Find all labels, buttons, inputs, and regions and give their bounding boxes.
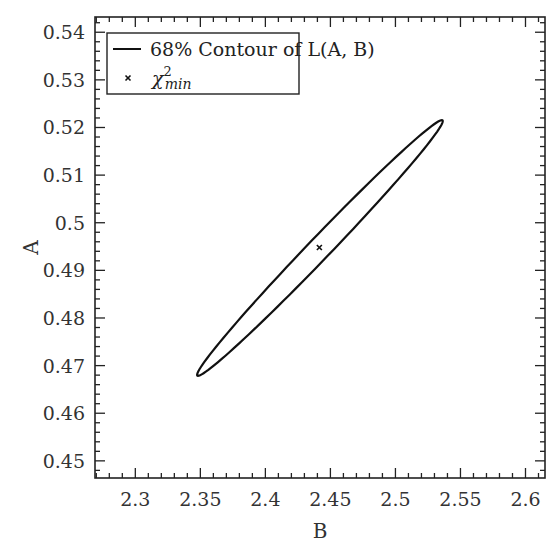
y-tick-label: 0.46: [43, 402, 85, 424]
y-tick-label: 0.51: [43, 164, 85, 186]
y-tick-label: 0.49: [43, 259, 85, 281]
y-tick-label: 0.53: [43, 69, 85, 91]
x-tick-label: 2.45: [309, 488, 351, 510]
x-tick-label: 2.4: [250, 488, 280, 510]
legend: 68% Contour of L(A, B) χ2min: [107, 33, 375, 94]
x-tick-label: 2.35: [179, 488, 221, 510]
y-tick-label: 0.48: [43, 307, 85, 329]
y-tick-label: 0.45: [43, 450, 85, 472]
x-tick-label: 2.55: [439, 488, 481, 510]
x-tick-label: 2.6: [510, 488, 540, 510]
x-axis-label: B: [313, 519, 328, 543]
y-tick-label: 0.52: [43, 116, 85, 138]
y-tick-label: 0.54: [43, 21, 85, 43]
x-tick-label: 2.5: [380, 488, 410, 510]
y-axis-label: A: [19, 240, 43, 256]
y-tick-label: 0.5: [55, 212, 85, 234]
y-tick-label: 0.47: [43, 355, 85, 377]
contour-chart: 2.32.352.42.452.52.552.60.450.460.470.48…: [0, 0, 558, 551]
chi2-min-marker: [317, 245, 322, 250]
legend-label-contour: 68% Contour of L(A, B): [150, 38, 375, 60]
x-tick-label: 2.3: [120, 488, 150, 510]
